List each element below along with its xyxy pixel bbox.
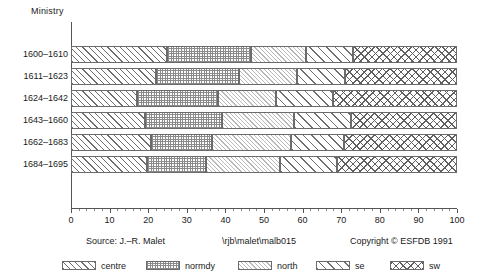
bar-segment-north — [251, 46, 306, 63]
x-tick-label: 70 — [336, 215, 346, 225]
x-tick-label: 100 — [449, 215, 464, 225]
footer-copyright: Copyright © ESFDB 1991 — [350, 236, 453, 246]
x-tick-major — [71, 209, 72, 213]
x-tick-minor — [295, 209, 296, 211]
bar-segment-centre — [71, 134, 151, 151]
legend-label: centre — [101, 261, 126, 271]
x-tick-minor — [79, 209, 80, 211]
x-tick-minor — [218, 209, 219, 211]
x-tick-minor — [140, 209, 141, 211]
bar-segment-sw — [345, 68, 457, 85]
bar-segment-sw — [333, 90, 457, 107]
x-tick-minor — [133, 209, 134, 211]
x-tick-minor — [403, 209, 404, 211]
x-tick-label: 50 — [259, 215, 269, 225]
bar-segment-normdy — [145, 112, 222, 129]
bar-segment-se — [294, 112, 350, 129]
bar-row — [71, 112, 457, 129]
y-axis-label: 1643–1660 — [2, 115, 68, 125]
legend-item-se[interactable]: se — [316, 256, 365, 270]
legend-swatch-sw — [390, 261, 424, 270]
chart-footer: Source: J.–R. Malet \rjb\malet\malb015 C… — [0, 236, 484, 254]
x-tick-minor — [326, 209, 327, 211]
x-tick-minor — [287, 209, 288, 211]
y-axis-label: 1662–1683 — [2, 137, 68, 147]
bar-segment-normdy — [137, 90, 218, 107]
bar-segment-se — [306, 46, 352, 63]
y-axis-label: 1611–1623 — [2, 71, 68, 81]
x-tick-minor — [249, 209, 250, 211]
legend-label: north — [277, 261, 298, 271]
x-tick-minor — [318, 209, 319, 211]
x-tick-minor — [102, 209, 103, 211]
x-tick-minor — [233, 209, 234, 211]
bar-segment-north — [222, 112, 294, 129]
x-tick-minor — [349, 209, 350, 211]
bar-segment-sw — [337, 156, 457, 173]
x-tick-minor — [156, 209, 157, 211]
legend-item-sw[interactable]: sw — [390, 256, 440, 270]
x-tick-minor — [94, 209, 95, 211]
x-tick-label: 20 — [143, 215, 153, 225]
x-tick-minor — [202, 209, 203, 211]
x-tick-minor — [279, 209, 280, 211]
x-tick-minor — [395, 209, 396, 211]
x-tick-minor — [241, 209, 242, 211]
bar-segment-sw — [353, 46, 457, 63]
x-tick-minor — [117, 209, 118, 211]
x-tick-minor — [333, 209, 334, 211]
legend-label: normdy — [185, 261, 215, 271]
y-axis-label: 1684–1695 — [2, 159, 68, 169]
x-tick-minor — [272, 209, 273, 211]
x-tick-minor — [426, 209, 427, 211]
x-tick-label: 10 — [105, 215, 115, 225]
x-tick-major — [380, 209, 381, 213]
bar-segment-centre — [71, 156, 147, 173]
bar-row — [71, 156, 457, 173]
legend-swatch-normdy — [146, 261, 180, 270]
x-tick-minor — [372, 209, 373, 211]
x-tick-minor — [164, 209, 165, 211]
legend-swatch-centre — [62, 261, 96, 270]
x-axis-ticks: 0102030405060708090100 — [71, 209, 457, 231]
bar-segment-north — [239, 68, 297, 85]
bar-segment-centre — [71, 46, 167, 63]
bar-segment-north — [218, 90, 277, 107]
bar-row — [71, 134, 457, 151]
bar-row — [71, 68, 457, 85]
bar-segment-se — [280, 156, 337, 173]
legend-item-centre[interactable]: centre — [62, 256, 126, 270]
x-tick-label: 0 — [68, 215, 73, 225]
bar-segment-normdy — [147, 156, 205, 173]
x-tick-label: 80 — [375, 215, 385, 225]
x-tick-major — [303, 209, 304, 213]
x-tick-major — [110, 209, 111, 213]
bar-segment-normdy — [156, 68, 239, 85]
x-tick-minor — [364, 209, 365, 211]
bar-chart: Ministry 1600–16101611–16231624–16421643… — [0, 0, 484, 279]
bar-segment-north — [206, 156, 280, 173]
y-axis-label: 1624–1642 — [2, 93, 68, 103]
x-tick-minor — [256, 209, 257, 211]
x-tick-major — [264, 209, 265, 213]
x-tick-label: 30 — [182, 215, 192, 225]
x-tick-minor — [434, 209, 435, 211]
x-tick-minor — [195, 209, 196, 211]
legend-item-normdy[interactable]: normdy — [146, 256, 215, 270]
x-tick-major — [457, 209, 458, 213]
legend-item-north[interactable]: north — [238, 256, 298, 270]
bar-segment-normdy — [151, 134, 212, 151]
bars-layer — [71, 22, 457, 182]
bar-segment-north — [212, 134, 291, 151]
x-tick-major — [418, 209, 419, 213]
legend-swatch-se — [316, 261, 350, 270]
legend-label: sw — [429, 261, 440, 271]
x-tick-major — [148, 209, 149, 213]
x-tick-minor — [179, 209, 180, 211]
bar-segment-se — [297, 68, 345, 85]
x-tick-major — [187, 209, 188, 213]
bar-row — [71, 90, 457, 107]
x-tick-minor — [357, 209, 358, 211]
x-tick-minor — [86, 209, 87, 211]
x-tick-minor — [411, 209, 412, 211]
